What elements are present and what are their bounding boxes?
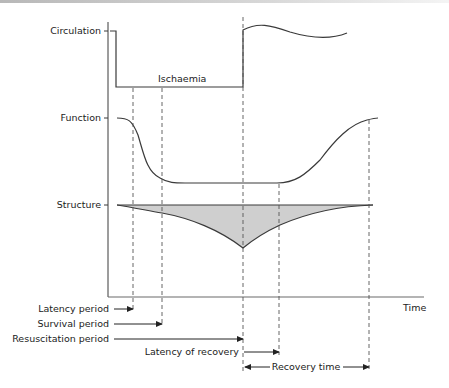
survival-period-label: Survival period [37,318,109,329]
resuscitation-period-label: Resuscitation period [12,333,109,344]
row-label-function: Function [61,112,101,123]
circulation-curve [110,25,347,87]
latency-of-recovery-label: Latency of recovery [145,346,240,357]
recovery-time-label: Recovery time [272,361,341,372]
row-label-structure: Structure [57,199,101,210]
time-axis-label: Time [402,302,426,313]
function-curve [117,118,378,183]
row-label-circulation: Circulation [50,25,101,36]
latency-period-label: Latency period [38,303,109,314]
ischaemia-timeline-diagram: Circulation Function Structure Ischaemia… [0,0,449,388]
ischaemia-label: Ischaemia [158,73,206,84]
